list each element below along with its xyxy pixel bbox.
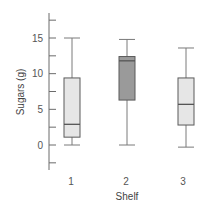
x-tick-label: 1 [68, 176, 74, 187]
iqr-box [178, 78, 194, 125]
box-shelf-2 [119, 39, 135, 145]
x-tick-label: 2 [123, 176, 129, 187]
y-tick-label: 5 [37, 104, 43, 115]
boxes [64, 38, 194, 147]
x-axis-label: Shelf [116, 191, 139, 202]
box-shelf-3 [178, 48, 194, 147]
y-tick-label: 0 [37, 140, 43, 151]
y-axis-label: Sugars (g) [15, 69, 26, 116]
x-axis-labels: 123 [68, 176, 186, 187]
y-tick-label: 10 [32, 68, 44, 79]
y-tick-label: 15 [32, 33, 44, 44]
box-shelf-1 [64, 38, 80, 145]
y-axis: 051015 [32, 13, 56, 170]
iqr-box [119, 57, 135, 101]
iqr-box [64, 78, 80, 137]
x-tick-label: 3 [180, 176, 186, 187]
box-plot-chart: 051015 123 Sugars (g) Shelf [0, 0, 202, 214]
